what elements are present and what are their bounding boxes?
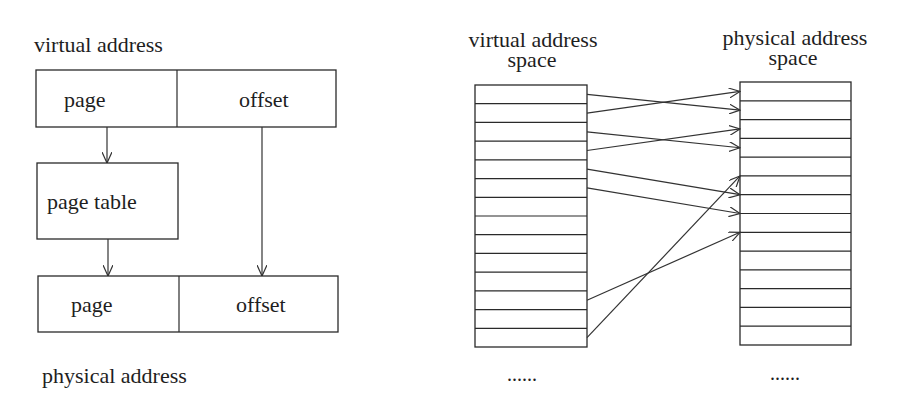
- virtual-offset-field: offset: [239, 87, 289, 112]
- virtual-page-field: page: [64, 87, 106, 112]
- virtual-address-space-table: [475, 85, 587, 347]
- physical-offset-field: offset: [236, 292, 286, 317]
- virtual-space-title-line2: space: [508, 47, 557, 72]
- address-translation: virtual address page offset page table p…: [34, 32, 338, 388]
- physical-address-space-table: [740, 82, 851, 345]
- mapping-arrow: [587, 169, 740, 195]
- physical-space-title-line2: space: [769, 45, 818, 70]
- physical-page-field: page: [71, 292, 113, 317]
- physical-address-register: page offset: [38, 276, 338, 332]
- mapping-arrow: [587, 91, 740, 113]
- address-space-mapping: virtual address space physical address s…: [469, 25, 868, 385]
- virtual-address-label: virtual address: [34, 32, 163, 57]
- virtual-space-ellipsis: ......: [507, 363, 537, 385]
- page-table-label: page table: [47, 189, 137, 214]
- physical-address-label: physical address: [42, 363, 187, 388]
- mapping-arrow: [587, 232, 740, 300]
- page-mapping-arrows: [587, 91, 740, 337]
- page-table: page table: [37, 163, 178, 239]
- virtual-address-register: page offset: [36, 70, 336, 127]
- physical-space-ellipsis: ......: [770, 362, 800, 384]
- paging-diagram: virtual address page offset page table p…: [0, 0, 909, 412]
- mapping-arrow: [587, 129, 740, 151]
